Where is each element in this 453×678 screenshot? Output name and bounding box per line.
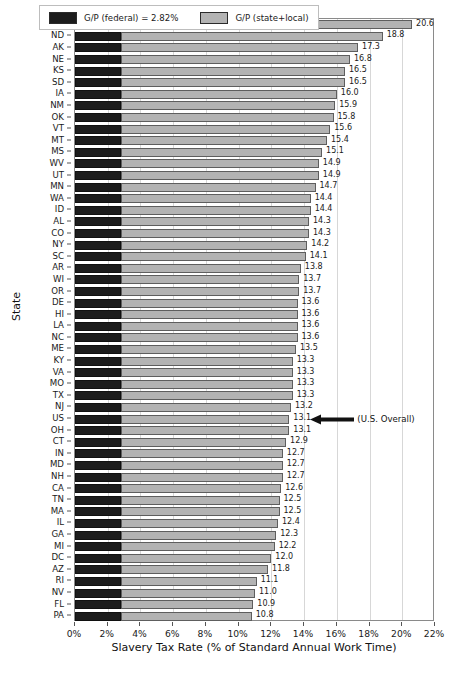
y-tick-label-nh: NH [51,471,64,481]
y-tick-mark [67,336,71,337]
bar-row: 14.2 [75,241,435,250]
bar-value-label: 13.3 [297,355,315,364]
y-tick-mark [67,580,71,581]
bar-segment-state-local [121,473,283,482]
bar-segment-federal [75,90,121,99]
bar-segment-federal [75,368,121,377]
annotation-label: (U.S. Overall) [357,414,414,424]
bar-row: 14.4 [75,206,435,215]
x-tick-label: 0% [67,628,82,639]
bar-row: 16.0 [75,90,435,99]
y-tick-mark [67,46,71,47]
y-tick-mark [67,522,71,523]
y-tick-mark [67,58,71,59]
bar-row: 11.0 [75,589,435,598]
y-tick-mark [67,220,71,221]
bar-value-label: 12.7 [287,471,305,480]
bar-segment-federal [75,78,121,87]
bar-segment-federal [75,159,121,168]
x-tick-mark [303,622,304,626]
bar-row: 13.6 [75,310,435,319]
y-tick-mark [67,232,71,233]
y-tick-label-ia: IA [56,88,64,98]
x-tick-mark [369,622,370,626]
y-tick-mark [67,278,71,279]
y-tick-label-wa: WA [50,193,64,203]
y-tick-label-co: CO [51,228,64,238]
y-tick-mark [67,557,71,558]
bar-row: 15.6 [75,125,435,134]
y-tick-label-ne: NE [52,54,64,64]
bar-value-label: 12.4 [282,517,300,526]
bar-row: 10.9 [75,600,435,609]
bar-row: 14.3 [75,229,435,238]
bar-value-label: 16.5 [349,65,367,74]
y-tick-label-vt: VT [53,123,64,133]
y-tick-mark [67,81,71,82]
y-tick-label-hi: HI [55,309,64,319]
y-tick-label-il: IL [57,517,64,527]
bar-value-label: 15.1 [326,146,344,155]
bar-value-label: 15.6 [334,123,352,132]
y-tick-label-in: IN [55,448,64,458]
bar-row: 18.8 [75,32,435,41]
bar-value-label: 11.8 [272,564,290,573]
y-tick-mark [67,93,71,94]
bar-row: 12.7 [75,461,435,470]
bar-row: 12.3 [75,531,435,540]
bar-segment-state-local [121,322,297,331]
x-tick-label: 10% [227,628,247,639]
bar-segment-state-local [121,43,358,52]
y-tick-mark [67,267,71,268]
bar-row: 12.6 [75,484,435,493]
bar-row: 11.1 [75,577,435,586]
y-tick-mark [67,325,71,326]
y-tick-label-ks: KS [53,65,64,75]
bar-segment-federal [75,43,121,52]
y-tick-mark [67,186,71,187]
y-tick-label-ca: CA [52,483,64,493]
bar-row: 13.6 [75,322,435,331]
bar-row: 13.7 [75,287,435,296]
x-tick-label: 2% [99,628,114,639]
y-tick-mark [67,162,71,163]
bar-segment-state-local [121,380,292,389]
x-tick-label: 4% [132,628,147,639]
bar-segment-state-local [121,333,297,342]
y-tick-label-mt: MT [51,135,64,145]
x-tick-label: 14% [293,628,313,639]
bar-value-label: 15.8 [338,112,356,121]
y-tick-mark [67,452,71,453]
y-tick-label-mo: MO [50,378,64,388]
bar-row: 13.6 [75,299,435,308]
y-tick-mark [67,418,71,419]
bar-segment-federal [75,426,121,435]
bar-segment-state-local [121,78,345,87]
bar-value-label: 12.5 [284,494,302,503]
bar-value-label: 13.3 [297,378,315,387]
bar-row: 12.2 [75,542,435,551]
bar-segment-state-local [121,229,309,238]
y-tick-mark [67,615,71,616]
bar-segment-federal [75,55,121,64]
y-tick-label-la: LA [53,320,64,330]
bar-segment-state-local [121,136,327,145]
y-tick-mark [67,313,71,314]
bar-row: 12.5 [75,507,435,516]
bar-value-label: 15.9 [339,100,357,109]
bar-segment-federal [75,507,121,516]
bar-value-label: 14.3 [313,228,331,237]
y-tick-label-nd: ND [51,30,64,40]
bar-row: 13.7 [75,275,435,284]
bar-row: 14.4 [75,194,435,203]
bar-row: 13.3 [75,391,435,400]
y-tick-mark [67,383,71,384]
y-tick-mark [67,104,71,105]
bar-value-label: 17.3 [362,42,380,51]
y-tick-mark [67,487,71,488]
bar-value-label: 14.1 [310,251,328,260]
bar-row: 15.8 [75,113,435,122]
bar-row: 15.9 [75,101,435,110]
bar-segment-federal [75,275,121,284]
bar-segment-federal [75,264,121,273]
